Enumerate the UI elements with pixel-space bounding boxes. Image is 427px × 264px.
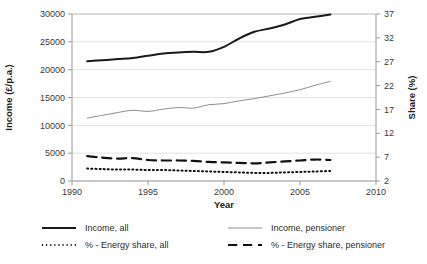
axis-layer	[68, 14, 380, 185]
legend-label: Income, pensioner	[271, 223, 345, 233]
series-line-0	[87, 15, 330, 62]
y-axis-right-tick-label: 17	[384, 105, 394, 115]
y-axis-left-tick-label: 0	[60, 176, 65, 186]
series-layer	[87, 15, 330, 173]
y-axis-right-tick-label: 22	[384, 81, 394, 91]
grid-layer	[72, 14, 376, 181]
legend-item[interactable]: % - Energy share, pensioner	[228, 240, 385, 250]
y-axis-right-title: Share (%)	[406, 76, 417, 120]
legend: Income, allIncome, pensioner% - Energy s…	[42, 223, 385, 250]
y-axis-right-tick-label: 12	[384, 128, 394, 138]
x-axis-tick-label: 2000	[214, 187, 234, 197]
y-axis-right-tick-label: 27	[384, 57, 394, 67]
y-axis-left-tick-label: 20000	[40, 65, 65, 75]
legend-label: % - Energy share, pensioner	[271, 240, 385, 250]
y-axis-left-tick-label: 10000	[40, 121, 65, 131]
series-line-3	[87, 156, 330, 163]
legend-item[interactable]: % - Energy share, all	[42, 240, 169, 250]
y-axis-left-tick-label: 25000	[40, 37, 65, 47]
legend-label: Income, all	[85, 223, 129, 233]
y-axis-left-tick-label: 30000	[40, 9, 65, 19]
series-line-1	[87, 81, 330, 118]
x-axis-tick-label: 1990	[62, 187, 82, 197]
y-axis-right-tick-label: 32	[384, 33, 394, 43]
legend-item[interactable]: Income, all	[42, 223, 129, 233]
y-axis-right-tick-label: 37	[384, 9, 394, 19]
legend-label: % - Energy share, all	[85, 240, 169, 250]
line-chart: 0500010000150002000025000300002712172227…	[0, 0, 427, 264]
x-axis-title: Year	[214, 199, 234, 210]
x-axis-tick-label: 2010	[366, 187, 386, 197]
chart-container: 0500010000150002000025000300002712172227…	[0, 0, 427, 264]
y-axis-right-tick-label: 2	[384, 176, 389, 186]
y-axis-left-title: Income (£/p.a.)	[3, 64, 14, 131]
y-axis-left-tick-label: 15000	[40, 93, 65, 103]
y-axis-right-tick-label: 7	[384, 152, 389, 162]
series-line-2	[87, 169, 330, 173]
x-axis-tick-label: 1995	[138, 187, 158, 197]
y-axis-left-tick-label: 5000	[45, 148, 65, 158]
x-axis-tick-label: 2005	[290, 187, 310, 197]
legend-item[interactable]: Income, pensioner	[228, 223, 345, 233]
